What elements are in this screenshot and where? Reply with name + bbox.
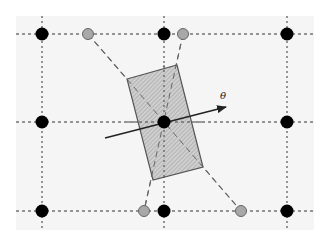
lattice-point xyxy=(158,116,171,129)
rotated-point xyxy=(139,206,150,217)
lattice-point xyxy=(36,116,49,129)
rotated-point xyxy=(178,29,189,40)
lattice-diagram: θ xyxy=(0,0,331,249)
lattice-point xyxy=(36,28,49,41)
theta-label: θ xyxy=(220,90,226,101)
labels: θ xyxy=(220,90,226,101)
rotated-point xyxy=(236,206,247,217)
lattice-point xyxy=(36,205,49,218)
lattice-point xyxy=(158,28,171,41)
rotated-point xyxy=(83,29,94,40)
lattice-point xyxy=(281,205,294,218)
diagram-canvas: θ xyxy=(0,0,331,249)
lattice-point xyxy=(158,205,171,218)
lattice-point xyxy=(281,116,294,129)
lattice-point xyxy=(281,28,294,41)
